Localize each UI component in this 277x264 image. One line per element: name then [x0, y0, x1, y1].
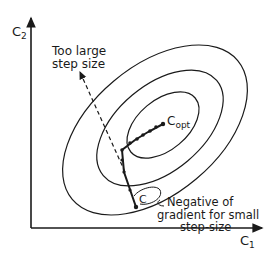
too-large-label-1: Too large: [51, 44, 106, 58]
gradient-label-1: Negative of: [167, 195, 234, 209]
gradient-descent-diagram: C2 C1 Too large step size Copt C Negativ…: [0, 0, 277, 264]
too-large-label-2: step size: [52, 57, 105, 71]
start-point-label: C: [139, 193, 147, 206]
y-axis-label: C2: [12, 24, 27, 41]
gradient-loop: [134, 187, 161, 204]
contour-middle: [76, 47, 245, 208]
too-large-step-arrow: [80, 72, 125, 172]
gradient-label-3: step-size: [180, 220, 231, 234]
x-axis-label: C1: [240, 233, 255, 250]
optimum-label: Copt: [167, 114, 191, 130]
